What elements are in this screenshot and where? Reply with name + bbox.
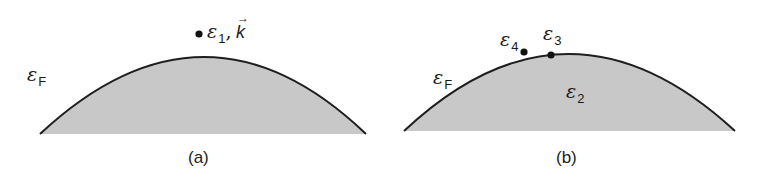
subscript: F	[444, 77, 452, 92]
vector-arrow-icon: →	[237, 11, 249, 25]
vector-letter: k	[236, 22, 245, 42]
electron-dot-e1	[195, 30, 202, 37]
electron-dot-e4	[520, 48, 527, 55]
subscript: F	[38, 74, 46, 89]
fermi-energy-label-a: εF	[27, 63, 46, 85]
subscript: 3	[554, 33, 561, 48]
epsilon-symbol: ε	[207, 20, 217, 42]
epsilon-symbol: ε	[543, 22, 553, 44]
epsilon-symbol: ε	[27, 63, 37, 85]
epsilon-symbol: ε	[500, 28, 510, 50]
electron-dot-e3	[547, 51, 554, 58]
electron-label-e4: ε4	[500, 28, 518, 50]
fermi-energy-label-b: εF	[433, 66, 452, 88]
caption-a: (a)	[188, 148, 209, 168]
subscript: 2	[577, 91, 584, 106]
electron-label-e1-k: ε1, →k	[207, 20, 245, 43]
caption-b: (b)	[556, 148, 577, 168]
subscript: 1	[218, 31, 225, 46]
comma-separator: ,	[225, 20, 231, 42]
wavevector-k: →k	[236, 22, 245, 43]
epsilon-symbol: ε	[433, 66, 443, 88]
diagram-canvas	[0, 0, 777, 180]
electron-label-e3: ε3	[543, 22, 561, 44]
subscript: 4	[511, 39, 518, 54]
epsilon-symbol: ε	[566, 80, 576, 102]
hole-label-e2: ε2	[566, 80, 584, 102]
